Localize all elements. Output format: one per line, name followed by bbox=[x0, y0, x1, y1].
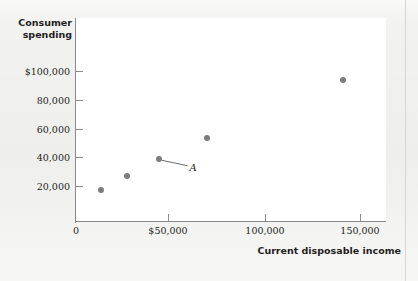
x-tick-mark-50000 bbox=[168, 214, 169, 221]
x-tick-mark-150000 bbox=[360, 214, 361, 221]
x-tick-label-0: 0 bbox=[31, 225, 121, 236]
y-tick-mark-20000 bbox=[76, 186, 83, 187]
y-tick-label-60000: 60,000 bbox=[0, 124, 70, 135]
y-tick-label-20000: 20,000 bbox=[0, 181, 70, 192]
scatter-plot-figure: $100,000 80,000 60,000 40,000 20,000 0 $… bbox=[0, 0, 418, 281]
x-tick-label-50000: $50,000 bbox=[123, 225, 213, 236]
y-axis-line bbox=[75, 18, 76, 223]
data-point bbox=[204, 135, 210, 141]
x-tick-label-150000: 150,000 bbox=[315, 225, 405, 236]
annotation-label-a: A bbox=[190, 162, 197, 173]
y-tick-label-100000: $100,000 bbox=[0, 66, 70, 77]
x-axis-line bbox=[75, 221, 386, 222]
x-tick-label-100000: 100,000 bbox=[220, 225, 310, 236]
y-tick-label-80000: 80,000 bbox=[0, 95, 70, 106]
plot-area-background bbox=[76, 18, 386, 222]
y-tick-label-40000: 40,000 bbox=[0, 152, 70, 163]
y-axis-title: Consumer spending bbox=[14, 17, 72, 40]
x-tick-mark-100000 bbox=[265, 214, 266, 221]
y-tick-mark-100000 bbox=[76, 71, 83, 72]
y-tick-mark-80000 bbox=[76, 100, 83, 101]
page-right-rule bbox=[405, 0, 406, 281]
data-point bbox=[340, 77, 346, 83]
data-point bbox=[98, 187, 104, 193]
x-axis-title: Current disposable income bbox=[246, 245, 401, 257]
y-tick-mark-40000 bbox=[76, 157, 83, 158]
y-tick-mark-60000 bbox=[76, 129, 83, 130]
